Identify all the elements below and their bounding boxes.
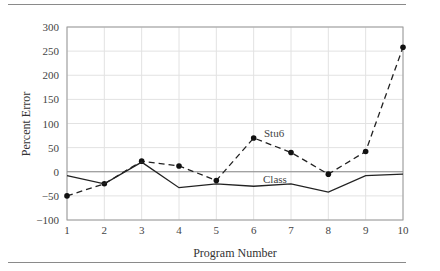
x-tick-label: 4 <box>176 224 182 236</box>
y-tick-label: −100 <box>36 214 59 226</box>
stu6-marker <box>214 178 220 184</box>
x-tick-labels: 12345678910 <box>64 224 409 236</box>
stu6-marker <box>251 135 257 141</box>
y-tick-label: 150 <box>43 93 60 105</box>
line-chart: −100−50050100150200250300 12345678910 Pr… <box>0 0 440 271</box>
x-tick-label: 1 <box>64 224 70 236</box>
y-tick-label: 300 <box>43 21 60 33</box>
y-axis-label: Percent Error <box>19 92 33 156</box>
x-tick-label: 3 <box>139 224 145 236</box>
x-tick-label: 9 <box>363 224 369 236</box>
y-tick-label: 100 <box>43 118 60 130</box>
series-lines <box>64 44 406 198</box>
stu6-marker <box>363 149 369 155</box>
x-tick-label: 10 <box>398 224 410 236</box>
x-tick-label: 2 <box>102 224 108 236</box>
y-tick-label: 200 <box>43 69 60 81</box>
class-line <box>67 162 403 192</box>
stu6-marker <box>64 193 70 199</box>
y-tick-label: 250 <box>43 45 60 57</box>
x-tick-label: 6 <box>251 224 257 236</box>
x-tick-label: 8 <box>326 224 332 236</box>
stu6-label: Stu6 <box>264 127 285 139</box>
class-label: Class <box>263 173 287 185</box>
y-tick-label: 50 <box>48 142 60 154</box>
x-tick-label: 5 <box>214 224 220 236</box>
grid <box>67 27 403 220</box>
stu6-marker <box>326 171 332 177</box>
stu6-line <box>67 47 403 196</box>
y-tick-label: 0 <box>54 166 60 178</box>
x-axis-label: Program Number <box>193 246 277 260</box>
stu6-marker <box>288 150 294 156</box>
y-tick-labels: −100−50050100150200250300 <box>36 21 59 226</box>
stu6-marker <box>176 163 182 169</box>
stu6-marker <box>400 44 406 50</box>
x-tick-label: 7 <box>288 224 294 236</box>
y-tick-label: −50 <box>42 190 60 202</box>
